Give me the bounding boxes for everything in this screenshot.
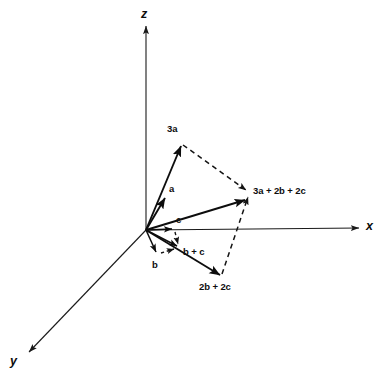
vector-b-plus-c-label: b + c <box>183 247 204 257</box>
dashed-b-to-bplusc-line <box>161 249 174 253</box>
dashed-c-to-bplusc-line <box>175 232 178 244</box>
vector-b-label: b <box>152 260 158 270</box>
z-axis-label: z <box>141 8 147 21</box>
dashed-2b2c-to-resultant-line <box>222 197 248 274</box>
vector-c-line <box>146 229 172 230</box>
vector-canvas <box>0 0 380 379</box>
x-axis-line <box>146 228 359 230</box>
vector-a-label: a <box>169 184 174 194</box>
vector-diagram-figure: z x y 3a a c b b + c 2b + 2c 3a + 2b + 2… <box>0 0 380 379</box>
dashed-3a-to-resultant-line <box>183 145 246 190</box>
vector-2b-plus-2c-label: 2b + 2c <box>199 282 231 292</box>
axes-group <box>29 26 359 352</box>
vector-c-label: c <box>176 215 181 225</box>
x-axis-label: x <box>366 220 373 233</box>
vector-resultant-label: 3a + 2b + 2c <box>253 186 306 196</box>
y-axis-line <box>29 230 146 352</box>
vector-3a-label: 3a <box>167 124 177 134</box>
y-axis-label: y <box>10 355 17 368</box>
